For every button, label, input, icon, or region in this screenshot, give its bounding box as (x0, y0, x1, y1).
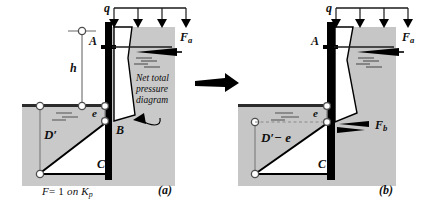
label-force-a: Fa (180, 31, 192, 45)
label-point-b: B (116, 124, 124, 137)
label-dim-e-a: e (92, 108, 97, 120)
equation-k-subscript: p (89, 190, 93, 199)
label-q-a: q (104, 2, 110, 15)
panel-b-graphics (217, 0, 433, 213)
equation-eq: = 1 (49, 185, 64, 197)
force-a-subscript-b: a (410, 35, 414, 45)
force-a-subscript: a (188, 35, 192, 45)
figure-root: q A B C h e D′ Fa Net total pressure dia… (0, 0, 433, 213)
panel-b-tag: (b) (379, 184, 393, 197)
label-point-a-b: A (311, 35, 319, 48)
annotation-line-1: Net total (136, 73, 169, 84)
ground-surface-left (22, 104, 112, 107)
dim-h-node-top (78, 27, 85, 34)
annotation-net-pressure: Net total pressure diagram (136, 73, 169, 106)
dim-h-node-bottom (78, 102, 85, 109)
annotation-line-3: diagram (136, 95, 169, 106)
dim-d-minus-e-node-bottom (251, 170, 258, 177)
equation-factor-safety: F= 1 on Kp (42, 186, 93, 199)
panel-b: q A C e D′− e Fa Fb (b) (217, 0, 433, 213)
surcharge-arrow-b-4 (403, 19, 413, 28)
label-dim-d-letter: D (44, 127, 53, 142)
surcharge-arrow-b-3 (379, 19, 389, 28)
label-dim-d-prime: ′ (53, 127, 57, 142)
surcharge-arrow-b-2 (355, 19, 365, 28)
label-dim-h: h (70, 62, 77, 75)
surcharge-arrow-2 (133, 19, 143, 28)
dim-d-node-top (36, 102, 43, 109)
dim-e-node-bottom-b (324, 119, 331, 126)
dim-e-node-top (102, 103, 109, 110)
label-dim-minus-e: − e (274, 130, 291, 145)
dim-d-node-bottom (36, 170, 43, 177)
surcharge-arrow-3 (157, 19, 167, 28)
panel-a: q A B C h e D′ Fa Net total pressure dia… (0, 0, 217, 213)
label-dim-d-letter-b: D (261, 130, 270, 145)
force-a-letter-b: F (402, 30, 410, 44)
label-dim-e-b: e (313, 108, 318, 120)
equation-k: K (81, 185, 89, 197)
surcharge-arrow-4 (181, 19, 191, 28)
panel-a-tag: (a) (158, 184, 172, 197)
equation-f: F (42, 185, 49, 197)
force-a-letter: F (180, 30, 188, 44)
label-point-c-b: C (318, 158, 326, 171)
force-b-subscript: b (383, 123, 387, 133)
label-dim-d-minus-e: D′− e (261, 131, 291, 145)
dim-e-node-top-b (324, 103, 331, 110)
annotation-line-2: pressure (136, 84, 169, 95)
label-point-c: C (97, 158, 105, 171)
force-b-letter: F (375, 118, 383, 132)
label-force-a-b: Fa (402, 31, 414, 45)
label-force-b: Fb (375, 119, 387, 133)
label-point-a: A (89, 35, 97, 48)
dim-e-node-bottom (102, 118, 109, 125)
label-dim-d-a: D′ (44, 128, 57, 142)
label-q-b: q (326, 2, 332, 15)
equation-on: on (67, 185, 78, 197)
